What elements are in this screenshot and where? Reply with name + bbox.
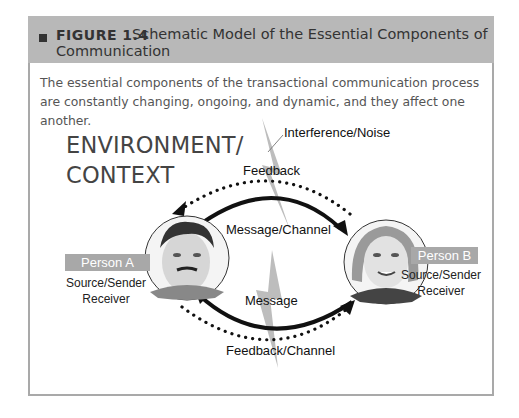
feedback-top-label: Feedback bbox=[243, 163, 300, 178]
message-channel-label: Message/Channel bbox=[226, 222, 331, 237]
message-bottom-label: Message bbox=[245, 293, 298, 308]
person-a-role2: Receiver bbox=[58, 291, 154, 307]
arrowhead-feedback-top-icon bbox=[172, 201, 186, 216]
person-a-role1: Source/Sender bbox=[58, 275, 154, 291]
person-b-tag: Person B bbox=[411, 247, 478, 264]
person-a-tag: Person A bbox=[65, 254, 150, 271]
person-a-role: Source/Sender Receiver bbox=[58, 275, 154, 307]
person-a-portrait bbox=[145, 216, 229, 300]
interference-noise-label: Interference/Noise bbox=[284, 125, 390, 140]
person-b-role: Source/Sender Receiver bbox=[400, 267, 482, 299]
feedback-channel-label: Feedback/Channel bbox=[226, 343, 335, 358]
person-b-role2: Receiver bbox=[400, 283, 482, 299]
person-b-role1: Source/Sender bbox=[400, 267, 482, 283]
arrowhead-feedback-bottom-icon bbox=[340, 300, 355, 315]
